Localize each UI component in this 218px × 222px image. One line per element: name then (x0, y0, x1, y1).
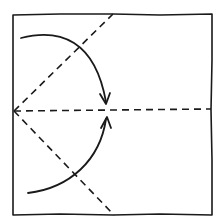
upper-diagonal-crease (14, 14, 113, 111)
upper-fold-arrow (21, 35, 110, 104)
lower-diagonal-crease (14, 111, 114, 215)
horizontal-center-crease (14, 109, 211, 111)
lower-arrow-shaft (28, 119, 106, 193)
origami-diagram (0, 0, 218, 222)
paper-square (13, 14, 212, 215)
lower-fold-arrow (28, 117, 111, 193)
